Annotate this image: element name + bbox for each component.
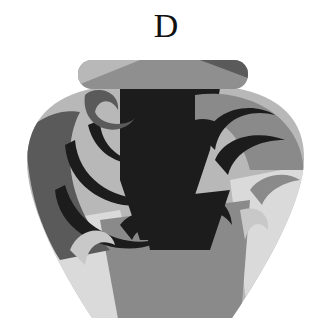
vase-lid bbox=[78, 60, 248, 89]
vase-body bbox=[0, 80, 332, 330]
vase-illustration bbox=[0, 0, 332, 330]
